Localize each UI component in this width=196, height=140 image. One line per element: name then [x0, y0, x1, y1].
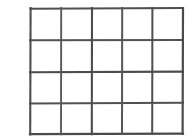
grid-cell[interactable] [30, 40, 61, 72]
grid-cell[interactable] [92, 8, 122, 40]
grid-cell[interactable] [122, 40, 152, 72]
grid-cell[interactable] [61, 103, 92, 134]
grid-cell[interactable] [92, 103, 122, 134]
blank-grid-table [0, 0, 196, 140]
grid-line-horizontal-top [31, 8, 184, 9]
grid-line-horizontal [30, 72, 183, 73]
grid-cell[interactable] [30, 103, 61, 134]
grid-line-horizontal [30, 103, 183, 104]
grid-cell[interactable] [152, 40, 183, 72]
grid-cell[interactable] [122, 72, 152, 103]
grid-cell[interactable] [92, 72, 122, 103]
grid-cell[interactable] [61, 8, 92, 40]
grid-cell[interactable] [30, 8, 61, 40]
grid-cell[interactable] [92, 40, 122, 72]
grid-line-horizontal-bottom [30, 134, 183, 135]
grid-cell[interactable] [122, 8, 152, 40]
grid-cell[interactable] [61, 72, 92, 103]
grid-row [30, 40, 183, 72]
grid-cell[interactable] [30, 72, 61, 103]
grid-cell[interactable] [152, 103, 183, 134]
grid-row [30, 103, 183, 134]
grid-cell[interactable] [122, 103, 152, 134]
grid-cell[interactable] [61, 40, 92, 72]
figure-canvas [0, 0, 196, 140]
grid-cell[interactable] [152, 8, 183, 40]
grid-cell[interactable] [152, 72, 183, 103]
grid-row [30, 72, 183, 103]
grid-row [30, 8, 183, 40]
